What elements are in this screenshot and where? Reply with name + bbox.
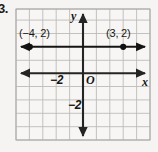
problem-number-label: 3. [0,2,8,16]
x-axis-label: x [142,76,148,88]
x-axis-tick-label-negative-two: −2 [50,74,63,86]
coordinate-grid-figure: 3. [0,0,158,152]
data-point-neg4-2 [27,44,33,50]
point-label-negative-four-two: (−4, 2) [19,28,50,39]
data-point-3-2 [120,44,126,50]
y-axis-tick-label-negative-two: −2 [68,99,81,111]
point-label-three-two: (3, 2) [106,28,130,39]
origin-label: O [86,74,95,86]
y-axis-label: y [71,10,76,22]
coordinate-plane-svg [0,0,158,152]
